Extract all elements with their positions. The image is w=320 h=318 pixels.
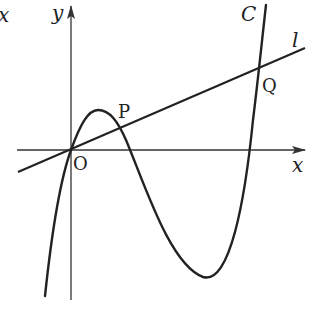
- y-axis-label: y: [51, 1, 64, 25]
- line-l: [18, 48, 305, 172]
- x-axis-label: x: [292, 153, 303, 177]
- stray-x-label: x: [0, 3, 9, 27]
- curve-c-label: C: [241, 2, 256, 26]
- point-p-label: P: [118, 101, 130, 122]
- diagram-canvas: x y x O P Q C l: [0, 0, 320, 318]
- point-q-label: Q: [262, 75, 277, 96]
- origin-label: O: [73, 153, 88, 174]
- line-l-label: l: [292, 28, 298, 52]
